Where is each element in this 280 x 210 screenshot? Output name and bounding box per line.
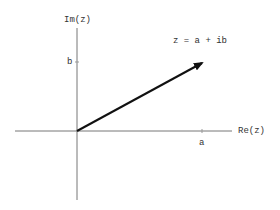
- vector-label: z = a + ib: [173, 37, 227, 46]
- y-tick-label: b: [67, 58, 72, 67]
- x-tick-label: a: [199, 139, 204, 148]
- complex-plane-diagram: Im(z) b Re(z) a z = a + ib: [0, 0, 280, 210]
- diagram-graphics: [0, 0, 280, 210]
- vector-arrow: [77, 63, 202, 131]
- real-axis-label: Re(z): [238, 127, 265, 136]
- imaginary-axis-label: Im(z): [64, 16, 91, 25]
